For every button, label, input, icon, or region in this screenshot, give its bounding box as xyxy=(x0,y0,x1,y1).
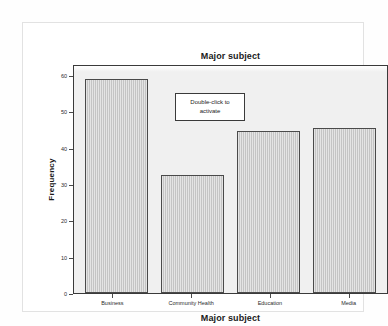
x-axis-tick-label: Education xyxy=(231,300,310,306)
y-axis-tick-label: 0 xyxy=(64,291,67,297)
bar[interactable] xyxy=(161,175,224,293)
y-axis-tick-label: 10 xyxy=(61,255,67,261)
x-axis-tick xyxy=(349,294,350,298)
y-axis-tick-label: 60 xyxy=(61,73,67,79)
y-axis-tick-label: 40 xyxy=(61,146,67,152)
bar[interactable] xyxy=(313,128,376,293)
y-axis-tick-label: 50 xyxy=(61,109,67,115)
bar-slot xyxy=(307,66,383,293)
double-click-activate-overlay[interactable]: Double-click to activate xyxy=(175,93,245,121)
chart-card: Major subject Frequency 0102030405060 Do… xyxy=(22,22,364,312)
bar-slot xyxy=(78,66,154,293)
activate-line-1: Double-click to xyxy=(178,98,242,107)
x-axis-tick-label: Community Health xyxy=(152,300,231,306)
activate-line-2: activate xyxy=(178,107,242,116)
x-axis-tick-label: Media xyxy=(309,300,388,306)
x-axis-tick xyxy=(270,294,271,298)
y-axis-title: Frequency xyxy=(45,65,57,294)
x-axis-tick xyxy=(191,294,192,298)
y-axis-tick-label: 30 xyxy=(61,182,67,188)
x-axis-title: Major subject xyxy=(73,313,388,323)
bar[interactable] xyxy=(85,79,148,293)
x-axis-ticks xyxy=(73,294,388,299)
chart-title: Major subject xyxy=(73,51,388,61)
y-axis-tick-label: 20 xyxy=(61,218,67,224)
x-axis-tick-label: Business xyxy=(73,300,152,306)
x-axis-tick xyxy=(112,294,113,298)
x-axis-labels: BusinessCommunity HealthEducationMedia xyxy=(73,300,388,306)
bar[interactable] xyxy=(237,131,300,293)
y-axis-title-text: Frequency xyxy=(47,158,56,200)
